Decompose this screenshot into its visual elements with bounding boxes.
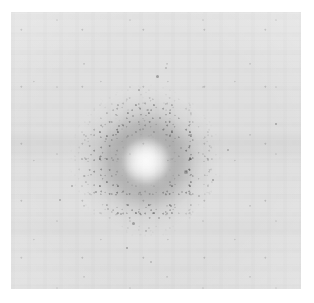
dust-speck [132,222,135,225]
dust-speck [95,191,97,193]
dust-speck [59,199,61,201]
dust-speck [171,130,173,132]
grayscale-image-panel [11,12,301,289]
dust-speck [147,109,149,111]
radial-blob-core [123,138,169,184]
dust-speck [118,125,120,127]
dust-speck [138,89,140,91]
dust-speck [150,261,152,263]
dust-speck [156,75,159,78]
dust-speck [198,195,200,197]
dust-speck [184,170,187,173]
dust-speck [275,123,277,125]
dust-speck [145,230,147,232]
dust-speck [227,149,229,151]
figure-root [0,0,314,303]
